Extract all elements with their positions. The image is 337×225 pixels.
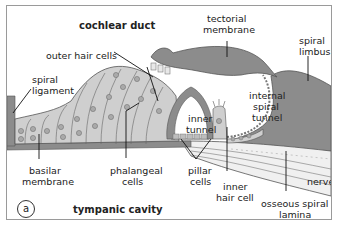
label-basilar-membrane-line1: basilar: [29, 165, 61, 176]
label-pillar-cells-line2: cells: [190, 176, 211, 187]
label-tectorial-membrane-line1: tectorial: [207, 13, 246, 24]
label-inner-hair-cell-line2: hair cell: [216, 192, 254, 203]
label-internal-spiral-tunnel-line3: tunnel: [252, 112, 282, 123]
label-phalangeal-cells-line1: phalangeal: [110, 165, 163, 176]
label-osseous-spiral-lamina-line2: lamina: [279, 209, 311, 220]
label-outer-hair-cells: outer hair cells: [46, 50, 117, 61]
label-spiral-limbus-line2: limbus: [299, 46, 331, 57]
panel-letter-badge: a: [17, 200, 35, 218]
spiral-ligament-shape: [7, 96, 15, 146]
label-pillar-cells-line1: pillar: [188, 165, 212, 176]
label-cochlear-duct: cochlear duct: [79, 20, 155, 31]
cochlea-diagram: cochlear duct tectorial membrane outer h…: [6, 5, 332, 220]
label-basilar-membrane-line2: membrane: [22, 176, 74, 187]
label-inner-tunnel-line2: tunnel: [186, 124, 216, 135]
label-inner-hair-cell-line1: inner: [223, 181, 247, 192]
label-internal-spiral-tunnel-line1: internal: [249, 90, 285, 101]
label-nerve: nerve: [307, 176, 332, 187]
label-internal-spiral-tunnel-line2: spiral: [253, 101, 279, 112]
label-spiral-ligament-line1: spiral: [32, 74, 58, 85]
label-tympanic-cavity: tympanic cavity: [73, 204, 163, 215]
label-tectorial-membrane-line2: membrane: [203, 24, 255, 35]
label-spiral-ligament-line2: ligament: [32, 85, 74, 96]
label-phalangeal-cells-line2: cells: [122, 176, 143, 187]
label-inner-tunnel-line1: inner: [188, 113, 212, 124]
label-spiral-limbus-line1: spiral: [299, 35, 325, 46]
label-osseous-spiral-lamina-line1: osseous spiral: [261, 198, 328, 209]
cochlea-illustration: [7, 6, 331, 219]
